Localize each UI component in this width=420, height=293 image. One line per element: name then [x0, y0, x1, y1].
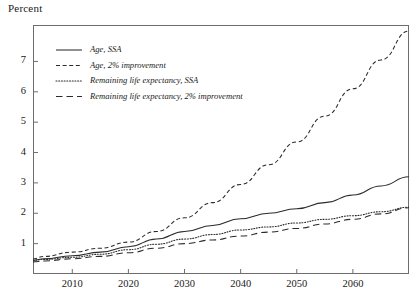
legend-item-label: Age, 2% improvement [90, 60, 166, 70]
chart-figure: Percent 1234567 201020202030204020502060… [0, 0, 420, 293]
legend-swatches [0, 0, 420, 293]
legend-item-label: Age, SSA [90, 44, 122, 54]
legend-item-label: Remaining life expectancy, 2% improvemen… [90, 91, 243, 101]
legend-item-label: Remaining life expectancy, SSA [90, 75, 198, 85]
